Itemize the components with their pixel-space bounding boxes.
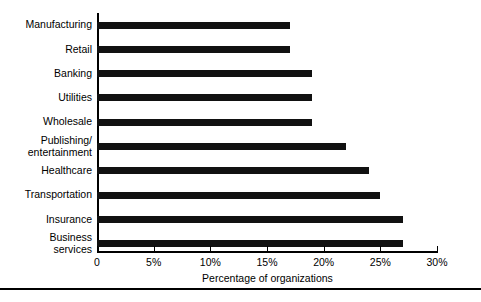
- x-axis-title: Percentage of organizations: [97, 272, 438, 284]
- category-label: Retail: [0, 44, 92, 56]
- category-label: Business services: [0, 232, 92, 255]
- x-tick-mark: [380, 246, 381, 252]
- x-tick-mark: [324, 246, 325, 252]
- bar-row: [97, 37, 437, 61]
- bar-row: [97, 135, 437, 159]
- bar-row: [97, 207, 437, 231]
- bar-insurance: [97, 216, 403, 223]
- bar-retail: [97, 46, 290, 53]
- bar-utilities: [97, 94, 312, 101]
- category-label: Wholesale: [0, 116, 92, 128]
- bar-row: [97, 183, 437, 207]
- x-tick-mark: [267, 246, 268, 252]
- x-tick-label: 5%: [134, 256, 174, 268]
- bar-chart-figure: ManufacturingRetailBankingUtilitiesWhole…: [0, 0, 481, 302]
- bar-row: [97, 232, 437, 256]
- bar-row: [97, 86, 437, 110]
- bar-manufacturing: [97, 22, 290, 29]
- bar-publishing-entertainment: [97, 143, 346, 150]
- bar-transportation: [97, 192, 380, 199]
- bar-healthcare: [97, 167, 369, 174]
- x-tick-label: 15%: [247, 256, 287, 268]
- footer-divider: [0, 288, 481, 290]
- x-tick-label: 30%: [417, 256, 457, 268]
- category-label: Utilities: [0, 92, 92, 104]
- category-label: Transportation: [0, 189, 92, 201]
- x-tick-mark: [97, 246, 98, 252]
- category-label: Banking: [0, 68, 92, 80]
- category-label: Manufacturing: [0, 19, 92, 31]
- category-label: Healthcare: [0, 165, 92, 177]
- bar-banking: [97, 70, 312, 77]
- x-tick-label: 0: [77, 256, 117, 268]
- x-tick-mark: [154, 246, 155, 252]
- x-tick-label: 20%: [304, 256, 344, 268]
- x-tick-mark: [210, 246, 211, 252]
- bar-business-services: [97, 240, 403, 247]
- bar-wholesale: [97, 119, 312, 126]
- category-label: Publishing/ entertainment: [0, 135, 92, 158]
- bar-row: [97, 110, 437, 134]
- bar-row: [97, 62, 437, 86]
- category-label: Insurance: [0, 214, 92, 226]
- bar-row: [97, 13, 437, 37]
- x-tick-label: 25%: [360, 256, 400, 268]
- bar-row: [97, 159, 437, 183]
- x-tick-mark: [437, 246, 438, 252]
- x-tick-label: 10%: [190, 256, 230, 268]
